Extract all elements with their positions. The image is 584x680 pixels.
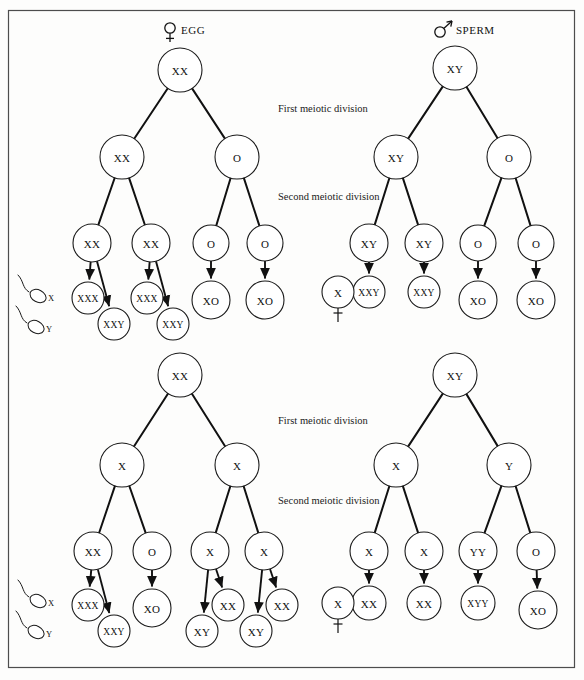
node-level2-1-label: X bbox=[233, 460, 241, 472]
edge-l2-to-l3-2 bbox=[216, 178, 230, 226]
node-level3-3-label: O bbox=[261, 238, 269, 250]
edge-root-to-l2-1 bbox=[466, 394, 497, 446]
node-level2-1-label: O bbox=[233, 152, 241, 164]
node-level2-0-label: XX bbox=[114, 152, 131, 164]
node-product-3: XO bbox=[519, 591, 557, 629]
node-level3-3: O bbox=[247, 225, 283, 261]
node-product-0: XXY bbox=[353, 276, 385, 308]
node-product-1-label: XXY bbox=[413, 288, 434, 298]
node-level3-1: XY bbox=[405, 224, 443, 262]
edge-root-to-l2-0 bbox=[408, 86, 443, 138]
sperm-y-legend-label: Y bbox=[46, 629, 52, 639]
node-product-2: XO bbox=[133, 589, 171, 627]
node-root: XX bbox=[158, 48, 202, 92]
node-lethal-1: X bbox=[322, 587, 354, 619]
node-level2-0: XY bbox=[374, 135, 418, 179]
meiosis-nondisjunction-diagram: EGG SPERM First meiotic division Second … bbox=[0, 0, 584, 680]
node-root: XX bbox=[158, 353, 202, 397]
tree-egg-first-division-nondisjunction: XXXXOXXXXOOXXXXXYXXXXXYXOXO bbox=[72, 48, 284, 340]
node-level2-0-label: XY bbox=[388, 152, 405, 164]
node-level3-0-label: XY bbox=[361, 238, 378, 250]
node-level3-2-label: YY bbox=[470, 546, 487, 558]
node-product-2-label: XO bbox=[470, 295, 487, 307]
edge-l2-to-l3-3 bbox=[244, 178, 260, 226]
node-level3-3-label: O bbox=[532, 238, 540, 250]
node-level2-1-label: O bbox=[505, 152, 513, 164]
node-root-label: XY bbox=[447, 63, 464, 75]
first-meiotic-division-label-bottom: First meiotic division bbox=[278, 415, 369, 426]
node-level3-0-label: XX bbox=[84, 238, 101, 250]
sperm-x-icon bbox=[18, 580, 48, 610]
node-product-3-label: XO bbox=[528, 295, 545, 307]
node-level3-2-label: O bbox=[207, 238, 215, 250]
node-level3-2: O bbox=[460, 225, 496, 261]
node-level2-0-label: X bbox=[118, 460, 126, 472]
node-level2-0: XX bbox=[100, 135, 144, 179]
edge-l2-to-l3-0 bbox=[99, 486, 115, 533]
node-level2-0-label: X bbox=[392, 460, 400, 472]
edge-root-to-l2-1 bbox=[192, 394, 225, 447]
node-product-3: XXY bbox=[157, 308, 189, 340]
node-product-6: XX bbox=[266, 589, 298, 621]
sperm-header-label: SPERM bbox=[456, 24, 495, 36]
lethal-node-0: X bbox=[322, 276, 354, 322]
arrow-l3-to-product-6 bbox=[270, 569, 276, 587]
node-product-5: XO bbox=[246, 281, 284, 319]
node-level2-1: X bbox=[215, 443, 259, 487]
edge-root-to-l2-1 bbox=[466, 87, 497, 138]
node-lethal-0: X bbox=[322, 276, 354, 308]
node-level3-2: X bbox=[191, 532, 229, 570]
node-root-label: XX bbox=[172, 370, 189, 382]
node-level3-0-label: X bbox=[365, 546, 373, 558]
node-product-4-label: XO bbox=[203, 295, 220, 307]
edge-l2-to-l3-0 bbox=[98, 178, 114, 225]
node-product-0-label: XXX bbox=[77, 601, 98, 611]
node-product-0-label: XXY bbox=[358, 288, 379, 298]
sperm-x-legend-label: X bbox=[48, 598, 54, 608]
node-level2-1: O bbox=[487, 135, 531, 179]
node-level3-0: XX bbox=[74, 532, 112, 570]
sperm-x-icon bbox=[18, 275, 48, 305]
node-level3-3-label: O bbox=[532, 546, 540, 558]
node-product-1: XXY bbox=[98, 615, 130, 647]
edge-root-to-l2-1 bbox=[192, 88, 225, 138]
node-product-3: XO bbox=[517, 281, 555, 319]
node-product-2-label: XO bbox=[144, 603, 161, 615]
node-level3-1-label: XY bbox=[416, 238, 433, 250]
node-level3-1-label: X bbox=[420, 546, 428, 558]
node-product-2: XO bbox=[459, 281, 497, 319]
node-root-label: XY bbox=[447, 370, 464, 382]
tree-sperm-first-division-nondisjunction: XYXYOXYXYOOXXYXXYXOXO bbox=[350, 46, 555, 319]
node-product-5-label: XY bbox=[248, 626, 265, 638]
node-root-label: XX bbox=[172, 65, 189, 77]
node-level2-1: O bbox=[215, 135, 259, 179]
node-product-1-label: XXY bbox=[103, 320, 124, 330]
edge-l2-to-l3-0 bbox=[375, 486, 390, 533]
sperm-y-legend-label: Y bbox=[46, 324, 52, 334]
node-product-4: XO bbox=[192, 281, 230, 319]
node-product-3: XY bbox=[186, 615, 218, 647]
node-product-3-label: XO bbox=[530, 605, 547, 617]
edge-l2-to-l3-3 bbox=[516, 178, 531, 226]
edge-root-to-l2-0 bbox=[408, 393, 443, 446]
second-meiotic-division-label-top: Second meiotic division bbox=[278, 191, 380, 202]
node-level3-0-label: XX bbox=[85, 546, 102, 558]
node-level3-0: XY bbox=[350, 224, 388, 262]
egg-header-label: EGG bbox=[181, 24, 205, 36]
node-level3-2-label: X bbox=[206, 546, 214, 558]
node-product-4: XX bbox=[212, 589, 244, 621]
tree-sperm-second-division-nondisjunction: XYXYXXYYOXXXXXYYXO bbox=[350, 353, 557, 629]
node-product-5-label: XO bbox=[257, 295, 274, 307]
node-level2-1: Y bbox=[487, 443, 531, 487]
node-level2-0: X bbox=[100, 443, 144, 487]
node-product-3-label: XY bbox=[194, 626, 211, 638]
node-level3-0: X bbox=[350, 532, 388, 570]
edge-l2-to-l3-2 bbox=[484, 178, 501, 226]
edge-l2-to-l3-1 bbox=[403, 486, 418, 533]
arrow-l3-to-product-3 bbox=[537, 570, 538, 589]
edge-l2-to-l3-1 bbox=[403, 178, 418, 225]
node-level2-0: X bbox=[374, 443, 418, 487]
edge-root-to-l2-0 bbox=[134, 393, 168, 446]
arrow-l3-to-product-0 bbox=[89, 262, 90, 280]
node-product-2: XXX bbox=[131, 282, 163, 314]
